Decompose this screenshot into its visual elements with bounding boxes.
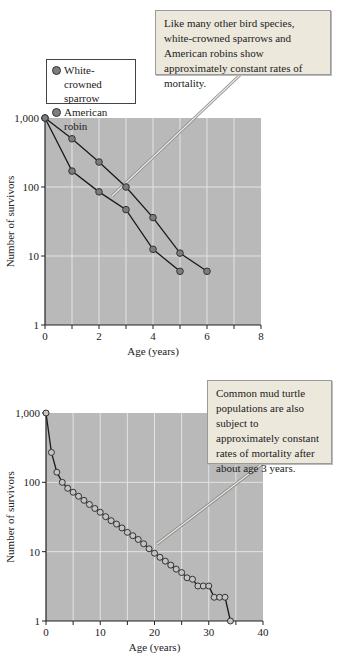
y-axis-label: Number of survivors	[4, 471, 16, 563]
sparrow-marker-icon	[52, 66, 61, 75]
top-callout: Like many other bird species, white-crow…	[155, 10, 331, 75]
y-tick-label: 10	[29, 546, 41, 558]
data-point	[59, 479, 65, 485]
data-point	[43, 410, 49, 416]
data-point	[146, 546, 152, 552]
data-point	[65, 485, 71, 491]
data-point	[96, 189, 103, 196]
data-point	[150, 214, 157, 221]
y-axis-label: Number of survivors	[4, 176, 16, 268]
data-point	[108, 518, 114, 524]
data-point	[42, 115, 49, 122]
data-point	[177, 268, 184, 275]
data-point	[204, 268, 211, 275]
data-point	[119, 525, 125, 531]
x-tick-label: 0	[42, 330, 48, 342]
data-point	[97, 509, 103, 515]
data-point	[96, 159, 103, 166]
bird-survivorship-chart: 024681101001,000Age (years)Number of sur…	[4, 75, 264, 358]
y-tick-label: 100	[23, 181, 40, 193]
data-point	[162, 558, 168, 564]
data-point	[69, 168, 76, 175]
y-tick-label: 1,000	[14, 112, 39, 124]
data-point	[173, 566, 179, 572]
x-tick-label: 2	[96, 330, 102, 342]
data-point	[150, 246, 157, 253]
y-tick-label: 1,000	[15, 407, 40, 419]
x-tick-label: 4	[150, 330, 156, 342]
data-point	[48, 449, 54, 455]
x-tick-label: 10	[95, 626, 107, 638]
data-point	[70, 489, 76, 495]
x-tick-label: 30	[203, 626, 215, 638]
data-point	[54, 469, 60, 475]
data-point	[124, 529, 130, 535]
data-point	[157, 554, 163, 560]
legend-item-robin: American robin	[52, 105, 130, 133]
data-point	[123, 206, 130, 213]
y-tick-label: 100	[24, 476, 41, 488]
data-point	[222, 594, 228, 600]
data-point	[152, 550, 158, 556]
data-point	[135, 536, 141, 542]
y-tick-label: 1	[34, 319, 40, 331]
robin-marker-icon	[52, 108, 61, 117]
data-point	[179, 570, 185, 576]
x-tick-label: 20	[149, 626, 161, 638]
x-tick-label: 40	[258, 626, 270, 638]
x-tick-label: 6	[204, 330, 210, 342]
data-point	[123, 184, 130, 191]
data-point	[69, 135, 76, 142]
x-axis-label: Age (years)	[127, 345, 179, 358]
data-point	[86, 501, 92, 507]
top-legend: White-crowned sparrow American robin	[46, 59, 136, 104]
legend-item-sparrow: White-crowned sparrow	[52, 63, 130, 105]
data-point	[168, 562, 174, 568]
data-point	[177, 250, 184, 257]
x-axis-label: Age (years)	[129, 641, 181, 654]
bottom-callout: Common mud turtle populations are also s…	[207, 380, 332, 464]
data-point	[189, 576, 195, 582]
data-point	[81, 497, 87, 503]
x-tick-label: 0	[43, 626, 49, 638]
data-point	[206, 583, 212, 589]
y-tick-label: 10	[28, 250, 40, 262]
x-tick-label: 8	[258, 330, 264, 342]
data-point	[76, 493, 82, 499]
y-tick-label: 1	[35, 615, 41, 627]
data-point	[103, 514, 109, 520]
data-point	[114, 521, 120, 527]
data-point	[227, 618, 233, 624]
data-point	[130, 533, 136, 539]
data-point	[92, 505, 98, 511]
data-point	[141, 541, 147, 547]
